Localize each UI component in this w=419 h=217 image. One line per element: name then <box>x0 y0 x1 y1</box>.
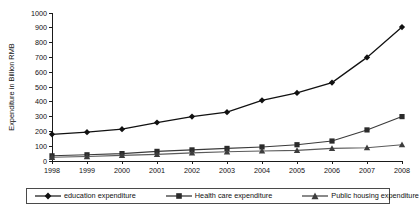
x-tick-label: 2000 <box>114 166 130 175</box>
data-point-marker <box>84 129 90 135</box>
y-tick-label: 300 <box>35 112 47 121</box>
legend-key-square-icon <box>166 191 192 201</box>
data-point-marker <box>189 114 195 120</box>
y-tick-label: 500 <box>35 83 47 92</box>
x-tick-label: 2006 <box>324 166 340 175</box>
x-tick-label: 2003 <box>219 166 235 175</box>
y-tick-label: 400 <box>35 97 47 106</box>
data-point-marker <box>399 114 404 119</box>
legend-entry-health-care[interactable]: Health care expenditure <box>166 189 272 203</box>
data-point-marker <box>224 109 230 115</box>
y-axis: 01002003004005006007008009001000 <box>31 9 52 166</box>
y-tick-label: 100 <box>35 142 47 151</box>
legend-label-public-housing: Public housing expenditure <box>331 191 419 201</box>
x-tick-label: 2002 <box>184 166 200 175</box>
data-point-marker <box>294 142 299 147</box>
x-tick-label: 1998 <box>44 166 60 175</box>
data-point-marker <box>49 131 55 137</box>
data-point-marker <box>294 90 300 96</box>
legend-key-triangle-icon <box>302 191 328 201</box>
y-tick-label: 1000 <box>31 9 47 18</box>
data-point-marker <box>119 126 125 132</box>
legend-entry-education[interactable]: education expenditure <box>35 189 136 203</box>
y-axis-title: Expenditure in Billion RMB <box>7 43 16 131</box>
series-layer <box>49 24 405 160</box>
x-tick-label: 2007 <box>359 166 375 175</box>
x-tick-label: 2005 <box>289 166 305 175</box>
legend-label-education: education expenditure <box>64 191 136 201</box>
legend-label-health-care: Health care expenditure <box>195 191 272 201</box>
y-tick-label: 200 <box>35 127 47 136</box>
x-tick-label: 2008 <box>394 166 410 175</box>
x-tick-label: 2004 <box>254 166 270 175</box>
chart-legend: education expenditure Health care expend… <box>26 188 390 204</box>
y-tick-label: 700 <box>35 53 47 62</box>
plot-area: 01002003004005006007008009001000 1998199… <box>0 0 416 186</box>
x-tick-label: 1999 <box>79 166 95 175</box>
y-tick-label: 800 <box>35 38 47 47</box>
data-point-marker <box>154 119 160 125</box>
legend-key-diamond-icon <box>35 191 61 201</box>
x-axis: 1998199920002001200220032004200520062007… <box>44 161 410 175</box>
legend-entry-public-housing[interactable]: Public housing expenditure <box>302 189 419 203</box>
y-tick-label: 900 <box>35 23 47 32</box>
data-point-marker <box>259 97 265 103</box>
data-point-marker <box>364 127 369 132</box>
data-point-marker <box>329 138 334 143</box>
x-tick-label: 2001 <box>149 166 165 175</box>
y-tick-label: 0 <box>43 157 47 166</box>
y-tick-label: 600 <box>35 68 47 77</box>
